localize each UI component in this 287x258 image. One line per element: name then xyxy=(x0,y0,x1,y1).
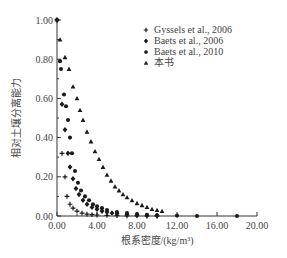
y-axis-label: 相对土壤分离能力 xyxy=(10,78,22,158)
x-tick-label: 8.00 xyxy=(128,220,146,231)
x-tick-label: 12.00 xyxy=(166,220,189,231)
legend-label: Baets et al., 2006 xyxy=(154,35,223,46)
legend: Gyssels et al., 2006Baets et al., 2006Ba… xyxy=(144,24,232,68)
series-plus xyxy=(55,18,160,219)
y-tick-label: 0.00 xyxy=(36,211,54,222)
x-tick-label: 4.00 xyxy=(88,220,106,231)
legend-label: Baets et al., 2010 xyxy=(154,46,223,57)
x-tick-label: 20.00 xyxy=(246,220,269,231)
legend-item: 本书 xyxy=(144,56,174,68)
series-triangle xyxy=(58,37,165,213)
legend-item: Baets et al., 2010 xyxy=(144,46,223,57)
legend-item: Gyssels et al., 2006 xyxy=(144,24,232,35)
legend-label: 本书 xyxy=(154,56,174,68)
legend-label: Gyssels et al., 2006 xyxy=(154,24,232,35)
series-diamond xyxy=(55,17,160,218)
legend-item: Baets et al., 2006 xyxy=(144,35,223,46)
y-tick-label: 1.00 xyxy=(36,15,54,26)
y-tick-label: 0.40 xyxy=(36,132,54,143)
x-tick-label: 0.00 xyxy=(48,220,66,231)
y-tick-label: 0.20 xyxy=(36,171,54,182)
scatter-chart: 0.004.008.0012.0016.0020.00 0.000.200.40… xyxy=(0,0,287,258)
y-tick-label: 0.60 xyxy=(36,93,54,104)
y-tick-label: 0.80 xyxy=(36,54,54,65)
x-axis-label: 根系密度/(kg/m³) xyxy=(121,234,194,247)
x-tick-label: 16.00 xyxy=(206,220,229,231)
